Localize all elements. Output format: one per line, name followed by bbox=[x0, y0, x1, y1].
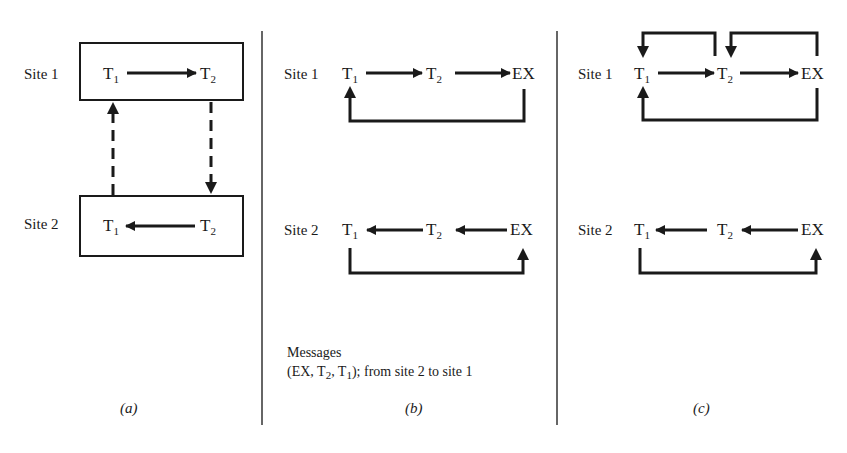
node-t2: T2 bbox=[200, 64, 216, 85]
site2-label: Site 2 bbox=[578, 222, 613, 238]
arrowhead-icon bbox=[637, 86, 649, 98]
node-t1: T1 bbox=[342, 220, 358, 241]
node-t1: T1 bbox=[634, 220, 650, 241]
node-t2: T2 bbox=[426, 64, 442, 85]
site1-label: Site 1 bbox=[578, 66, 613, 82]
panel-c: Site 1 T1 T2 EX Site 2 T1 T2 EX (c) bbox=[578, 33, 824, 417]
site2-label: Site 2 bbox=[284, 222, 319, 238]
arrowhead-icon bbox=[810, 248, 822, 260]
node-ex: EX bbox=[510, 220, 533, 239]
arrowhead-icon bbox=[205, 182, 217, 194]
arrowhead-icon bbox=[637, 46, 649, 58]
caption-c: (c) bbox=[693, 400, 710, 417]
node-t2: T2 bbox=[717, 220, 733, 241]
caption-b: (b) bbox=[405, 400, 423, 417]
edge-ex-to-t1 bbox=[643, 88, 817, 120]
arrowhead-icon bbox=[107, 102, 119, 114]
node-t1: T1 bbox=[342, 64, 358, 85]
panel-b: Site 1 T1 T2 EX Site 2 T1 T2 EX Messages… bbox=[284, 64, 535, 417]
node-t2: T2 bbox=[200, 216, 216, 237]
edge-t1-to-ex bbox=[350, 248, 523, 273]
arrowhead-icon bbox=[725, 46, 737, 58]
panel-a: Site 1 Site 2 T1 T2 T1 T2 (a) bbox=[24, 43, 243, 417]
site2-label: Site 2 bbox=[24, 216, 59, 232]
node-t1: T1 bbox=[634, 64, 650, 85]
node-ex: EX bbox=[512, 64, 535, 83]
edge-ex-to-t1 bbox=[350, 89, 524, 121]
caption-a: (a) bbox=[120, 400, 138, 417]
site1-label: Site 1 bbox=[24, 66, 59, 82]
node-ex: EX bbox=[801, 220, 824, 239]
messages-title: Messages bbox=[287, 345, 341, 360]
node-t2: T2 bbox=[426, 220, 442, 241]
arrowhead-icon bbox=[517, 248, 529, 260]
node-t1: T1 bbox=[103, 64, 119, 85]
node-ex: EX bbox=[801, 64, 824, 83]
deadlock-detection-figure: Site 1 Site 2 T1 T2 T1 T2 (a) Site 1 T1 … bbox=[0, 0, 847, 453]
node-t1: T1 bbox=[103, 216, 119, 237]
site1-label: Site 1 bbox=[284, 66, 319, 82]
edge-ex-to-t2 bbox=[731, 33, 817, 56]
node-t2: T2 bbox=[717, 64, 733, 85]
edge-t1-to-ex bbox=[640, 248, 816, 273]
edge-t2-to-t1 bbox=[643, 33, 715, 56]
messages-text: (EX, T2, T1); from site 2 to site 1 bbox=[287, 364, 472, 381]
arrowhead-icon bbox=[344, 86, 356, 98]
